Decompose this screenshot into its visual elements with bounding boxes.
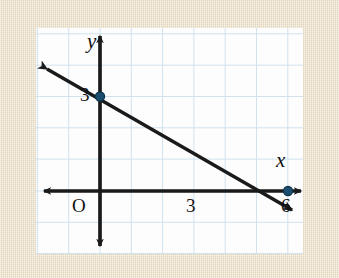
coordinate-plane: y x O 3 3 6 xyxy=(36,28,303,254)
graph-screenshot: y x O 3 3 6 xyxy=(0,0,339,278)
coordinate-plane-svg xyxy=(36,28,303,254)
x-tick-label-3: 3 xyxy=(186,196,196,215)
x-axis-label: x xyxy=(276,150,285,171)
y-axis-label: y xyxy=(87,31,96,52)
y-tick-label-3: 3 xyxy=(80,85,90,104)
origin-label: O xyxy=(72,196,86,215)
x-tick-label-6: 6 xyxy=(281,196,291,215)
point-y-intercept xyxy=(95,92,104,101)
